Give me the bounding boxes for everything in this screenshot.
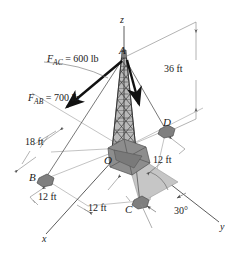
force-ac-magnitude: 600 — [73, 53, 88, 64]
dim-36ft-ext-bottom — [172, 119, 196, 130]
x-axis-label: x — [42, 234, 46, 244]
dim-18ft-label: 18 ft — [25, 137, 44, 147]
point-label-d: D — [163, 117, 171, 128]
angle-reference-line — [141, 204, 152, 228]
z-axis-label: z — [120, 15, 124, 25]
dim-36ft-lines — [127, 22, 196, 130]
dim-12ft-d-label: 12 ft — [153, 155, 172, 165]
force-ab-subscript: AB — [34, 97, 43, 106]
dim-12ft-b-label: 12 ft — [38, 192, 57, 202]
force-ac-subscript: AC — [53, 58, 63, 67]
dim-36ft-ext-top — [127, 22, 196, 56]
force-ac-equals: = — [63, 53, 74, 64]
force-ab-unit: lb — [71, 92, 79, 103]
force-ab-label: FAB = 700 lb — [28, 93, 79, 106]
tower-diagram-svg — [0, 0, 237, 255]
y-axis-label: y — [220, 222, 224, 232]
force-ac-label: FAC = 600 lb — [47, 54, 99, 67]
dim-12ft-c-lines — [108, 178, 130, 201]
figure-container: z y x A B C D O FAC = 600 lb FAB = 700 l… — [0, 0, 237, 255]
force-ab-equals: = — [43, 92, 54, 103]
angle-30-label: 30° — [174, 206, 188, 216]
point-label-b: B — [29, 172, 36, 183]
point-label-o: O — [104, 155, 112, 166]
angle-leader-left — [147, 206, 156, 212]
dim-36ft-label: 36 ft — [164, 64, 183, 74]
point-label-a: A — [119, 45, 126, 56]
force-ab-magnitude: 700 — [54, 92, 69, 103]
point-label-c: C — [125, 204, 132, 215]
dim-12ft-c-label: 12 ft — [88, 203, 107, 213]
force-ac-unit: lb — [91, 53, 99, 64]
